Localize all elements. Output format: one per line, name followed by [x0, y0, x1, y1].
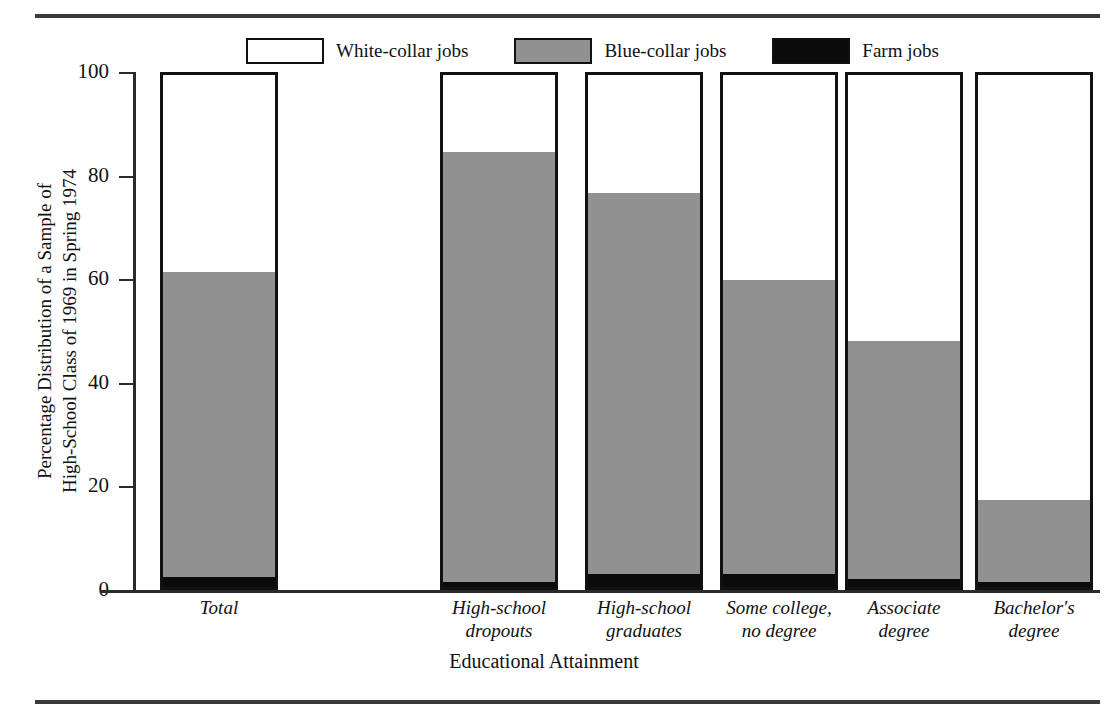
bar-total [160, 72, 278, 590]
bar-segment-blue [978, 500, 1090, 582]
x-axis-title-text: Educational Attainment [449, 650, 638, 673]
bar-high-school-graduates [585, 72, 703, 590]
bar-segment-blue [723, 280, 835, 574]
y-axis-tick-label: 100 [78, 59, 110, 84]
bar-segment-blue [588, 193, 700, 574]
top-rule [35, 14, 1100, 18]
legend-label: White-collar jobs [336, 40, 468, 62]
bar-segment-white [848, 75, 960, 341]
x-axis-baseline [100, 590, 1100, 593]
bar-segment-farm [723, 574, 835, 587]
legend-item: White-collar jobs [246, 38, 468, 64]
x-axis-category-label-line: Total [133, 596, 305, 619]
y-axis-tick-label: 80 [88, 163, 109, 188]
bar-segment-white [443, 75, 555, 152]
x-axis-title: Educational Attainment [0, 650, 1118, 673]
bar-segment-white [978, 75, 1090, 500]
chart-legend: White-collar jobsBlue-collar jobsFarm jo… [246, 36, 939, 66]
bar-high-school-dropouts [440, 72, 558, 590]
y-axis-tick-label: 40 [88, 370, 109, 395]
bar-segment-farm [978, 582, 1090, 587]
legend-label: Blue-collar jobs [604, 40, 726, 62]
bar-bachelor-s-degree [975, 72, 1093, 590]
y-axis-tick: 20 [119, 486, 133, 488]
legend-swatch-black [772, 38, 850, 64]
y-axis-title: Percentage Distribution of a Sample ofHi… [32, 169, 82, 493]
plot-area: Percentage Distribution of a Sample ofHi… [135, 72, 1100, 590]
legend-label: Farm jobs [862, 40, 939, 62]
legend-item: Blue-collar jobs [514, 38, 726, 64]
bar-segment-farm [588, 574, 700, 587]
bar-associate-degree [845, 72, 963, 590]
y-axis-tick: 40 [119, 383, 133, 385]
bar-segment-white [163, 75, 275, 272]
bar-segment-farm [163, 577, 275, 587]
bar-segment-blue [848, 341, 960, 579]
x-axis-category-label: Total [133, 596, 305, 619]
bar-some-college-no-degree [720, 72, 838, 590]
y-axis: 020406080100 [133, 72, 136, 591]
legend-item: Farm jobs [772, 38, 939, 64]
legend-swatch-gray [514, 38, 592, 64]
bar-segment-blue [443, 152, 555, 582]
y-axis-title-line: Percentage Distribution of a Sample of [32, 169, 57, 493]
bar-segment-white [723, 75, 835, 280]
y-axis-tick: 60 [119, 279, 133, 281]
x-axis-category-label: Bachelor'sdegree [948, 596, 1118, 642]
bar-segment-farm [443, 582, 555, 587]
y-axis-tick: 80 [119, 176, 133, 178]
bottom-rule [35, 700, 1100, 704]
y-axis-title-line: High-School Class of 1969 in Spring 1974 [57, 169, 82, 493]
y-axis-tick-label: 20 [88, 473, 109, 498]
x-axis-category-label-line: Bachelor's [948, 596, 1118, 619]
bar-segment-white [588, 75, 700, 193]
figure: White-collar jobsBlue-collar jobsFarm jo… [0, 0, 1118, 718]
x-axis-category-label-line: degree [948, 619, 1118, 642]
bar-segment-farm [848, 579, 960, 587]
legend-swatch-white [246, 38, 324, 64]
bar-segment-blue [163, 272, 275, 577]
y-axis-tick: 100 [119, 72, 133, 74]
y-axis-tick-label: 60 [88, 266, 109, 291]
